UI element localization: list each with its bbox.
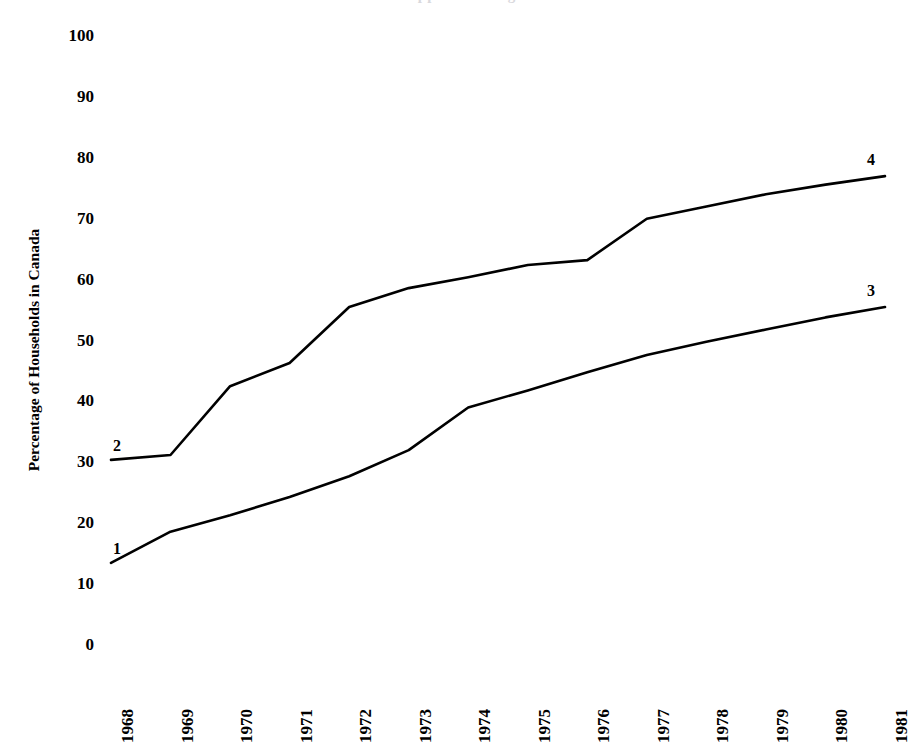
- series-label-upper-start: 2: [113, 438, 121, 454]
- chart-figure: …clipped heading… Percentage of Househol…: [0, 0, 916, 753]
- line-series-upper: [111, 176, 885, 460]
- line-series-lower: [111, 307, 885, 563]
- series-label-lower-start: 1: [113, 541, 121, 557]
- series-label-lower-end: 3: [867, 283, 875, 299]
- plot-area: [0, 0, 916, 753]
- series-label-upper-end: 4: [867, 152, 875, 168]
